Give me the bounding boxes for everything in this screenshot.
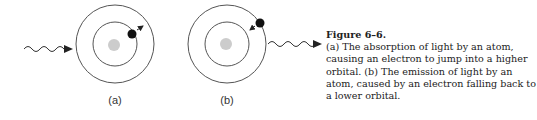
nucleus [220, 38, 232, 50]
electron-jump-arrow [137, 26, 143, 30]
panel-label-b: (b) [220, 94, 233, 106]
electron [128, 30, 137, 39]
electron [256, 19, 265, 28]
emitted-light-wave [268, 42, 316, 47]
caption-text: (a) The absorption of light by an atom, … [326, 41, 536, 101]
emitted-light-arrowhead [313, 40, 322, 48]
electron-fall-arrow [250, 26, 255, 30]
caption-title: Figure 6–6. [326, 29, 536, 41]
figure-caption: Figure 6–6. (a) The absorption of light … [326, 29, 536, 102]
panel-label-a: (a) [108, 94, 121, 106]
panel-b: (b) [188, 5, 322, 106]
incoming-light-wave [24, 47, 64, 52]
panel-a: (a) [24, 5, 154, 106]
incoming-light-arrowhead [64, 45, 73, 53]
nucleus [108, 39, 120, 51]
